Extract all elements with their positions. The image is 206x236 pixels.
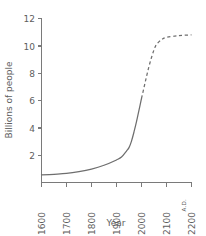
x-tick-label-2000: 2000	[137, 212, 147, 235]
y-tick-label-2: 2	[29, 151, 35, 161]
x-axis-tick-labels: 1600 1700 1800 1900 2000 2100 2200 A.D.	[37, 199, 197, 235]
population-curve-projected	[142, 35, 192, 99]
x-tick-label-2100: 2100	[162, 212, 172, 235]
y-tick-label-6: 6	[29, 96, 35, 106]
x-axis-title: Year	[105, 218, 125, 228]
x-tick-label-1600: 1600	[37, 212, 47, 235]
x-tick-label-1800: 1800	[87, 212, 97, 235]
y-axis-title: Billions of people	[4, 61, 14, 138]
x-tick-label-1700: 1700	[62, 212, 72, 235]
y-tick-label-4: 4	[29, 124, 35, 134]
era-annotation-ad: A.D.	[181, 199, 187, 211]
y-axis-ticks	[38, 19, 42, 156]
population-growth-chart: 12 10 8 6 4 2 1600 1700 1800 1900 2000 2…	[0, 0, 206, 236]
chart-plot-area: 12 10 8 6 4 2 1600 1700 1800 1900 2000 2…	[0, 0, 206, 236]
y-tick-label-12: 12	[24, 14, 35, 24]
x-tick-label-2200: 2200	[187, 212, 197, 235]
y-tick-label-8: 8	[29, 69, 35, 79]
x-axis-ticks	[42, 183, 192, 188]
y-axis-tick-labels: 12 10 8 6 4 2	[24, 14, 36, 161]
population-curve-historical-main	[42, 98, 142, 175]
y-tick-label-10: 10	[24, 42, 36, 52]
